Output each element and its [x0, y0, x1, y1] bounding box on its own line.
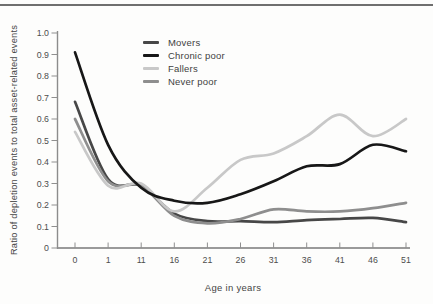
series-line-movers — [75, 102, 406, 222]
y-tick-label: 0.9 — [37, 50, 49, 60]
x-tick-label: 11 — [137, 255, 146, 265]
legend-item-chronic-poor: Chronic poor — [143, 49, 225, 62]
y-tick-label: 0.7 — [37, 93, 49, 103]
x-tick-label: 46 — [368, 255, 378, 265]
y-tick-label: 0.1 — [37, 222, 49, 232]
y-tick-label: 0.6 — [37, 114, 49, 124]
x-tick-label: 0 — [73, 255, 78, 265]
x-axis-title: Age in years — [133, 282, 333, 293]
y-tick-label: 0.3 — [37, 179, 49, 189]
legend-item-fallers: Fallers — [143, 62, 225, 75]
x-tick-label: 26 — [236, 255, 246, 265]
y-tick-label: 0.2 — [37, 200, 49, 210]
x-tick-label: 1 — [106, 255, 111, 265]
legend-label-movers: Movers — [168, 37, 200, 48]
legend-label-chronic-poor: Chronic poor — [168, 50, 225, 61]
x-tick-label: 41 — [335, 255, 345, 265]
figure-page: Ratio of depletion events to total asset… — [0, 0, 433, 304]
legend-swatch-never-poor — [143, 80, 159, 83]
series-line-chronic-poor — [75, 52, 406, 203]
x-tick-label: 51 — [401, 255, 411, 265]
y-tick-label: 0.4 — [37, 157, 49, 167]
y-tick-label: 0.8 — [37, 71, 49, 81]
x-tick-label: 31 — [269, 255, 279, 265]
series-line-fallers — [75, 115, 406, 212]
legend-swatch-movers — [143, 41, 159, 44]
legend-label-fallers: Fallers — [168, 63, 198, 74]
chart-legend: MoversChronic poorFallersNever poor — [143, 36, 225, 88]
legend-item-never-poor: Never poor — [143, 75, 225, 88]
legend-item-movers: Movers — [143, 36, 225, 49]
y-tick-label: 0.5 — [37, 136, 49, 146]
x-tick-label: 16 — [169, 255, 179, 265]
x-tick-label: 21 — [203, 255, 213, 265]
legend-label-never-poor: Never poor — [168, 76, 217, 87]
legend-swatch-chronic-poor — [143, 54, 159, 57]
legend-swatch-fallers — [143, 67, 159, 70]
y-tick-label: 0 — [44, 243, 49, 253]
x-tick-label: 36 — [302, 255, 312, 265]
y-tick-label: 1.0 — [37, 28, 49, 38]
